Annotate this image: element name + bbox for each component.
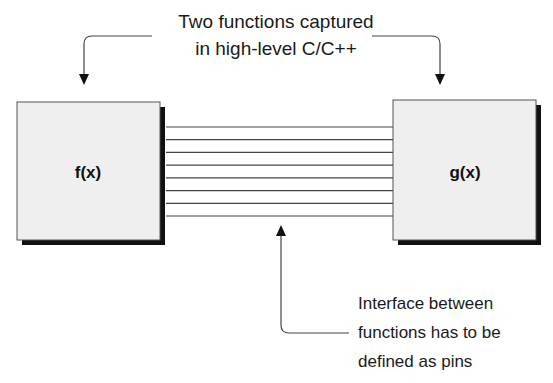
bottom-label-line-2: functions has to be [358,323,501,342]
block-f: f(x) [17,102,165,245]
block-f-label: f(x) [75,163,101,182]
bottom-label-line-3: defined as pins [358,352,472,371]
diagram-canvas: Two functions captured in high-level C/C… [0,0,553,383]
bottom-label-line-1: Interface between [358,294,493,313]
arrowhead-up-icon [276,225,286,236]
callout-arrow-right [372,36,440,74]
block-g: g(x) [393,100,541,245]
callout-arrow-bottom [281,236,349,333]
interface-pins [166,127,393,216]
top-label-line-2: in high-level C/C++ [195,38,357,59]
arrowhead-left-icon [79,74,89,85]
top-label-line-1: Two functions captured [178,11,373,32]
arrowhead-right-icon [435,74,445,85]
callout-arrow-left [84,36,152,74]
block-g-label: g(x) [449,163,480,182]
